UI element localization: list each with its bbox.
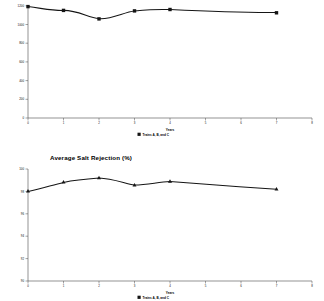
x-tick-label: 0 xyxy=(27,121,29,125)
x-tick-label: 4 xyxy=(169,121,171,125)
series-line-trains xyxy=(28,178,277,191)
figure-canvas: 0 200 400 600 800 1000 1200 xyxy=(0,0,324,301)
y-axis-tick-labels: 0 200 400 600 800 1000 1200 xyxy=(18,4,25,120)
x-tick-label: 2 xyxy=(98,284,100,288)
y-tick-label: 94 xyxy=(21,234,25,238)
chart-legend: Trains A, B, and C xyxy=(138,133,170,137)
x-tick-label: 0 xyxy=(27,284,29,288)
production-chart-plot: 0 200 400 600 800 1000 1200 xyxy=(0,0,324,145)
y-tick-label: 400 xyxy=(19,79,24,83)
x-tick-label: 3 xyxy=(134,121,136,125)
y-axis-tick-labels: 90 92 94 96 98 100 xyxy=(19,167,24,283)
data-point-marker xyxy=(26,5,29,8)
x-tick-label: 1 xyxy=(63,284,65,288)
salt-rejection-chart-plot: 90 92 94 96 98 100 0 1 xyxy=(0,147,324,301)
legend-square-icon xyxy=(138,296,141,299)
series-line-trains xyxy=(28,7,277,19)
production-chart: 0 200 400 600 800 1000 1200 xyxy=(0,0,324,145)
data-point-marker xyxy=(168,8,171,11)
y-tick-label: 96 xyxy=(21,212,25,216)
x-axis-title: Years xyxy=(166,128,175,132)
x-tick-label: 2 xyxy=(98,121,100,125)
data-point-marker xyxy=(97,17,100,20)
x-tick-label: 8 xyxy=(311,284,313,288)
chart-legend: Trains A, B, and C xyxy=(138,296,170,300)
data-point-marker xyxy=(62,9,65,12)
x-tick-label: 4 xyxy=(169,284,171,288)
x-axis-title: Years xyxy=(166,291,175,295)
x-tick-label: 5 xyxy=(205,284,207,288)
y-tick-label: 92 xyxy=(21,257,25,261)
y-tick-label: 100 xyxy=(19,167,24,171)
y-tick-label: 600 xyxy=(19,60,24,64)
y-tick-label: 800 xyxy=(19,41,24,45)
x-tick-label: 1 xyxy=(63,121,65,125)
x-tick-label: 3 xyxy=(134,284,136,288)
x-tick-label: 7 xyxy=(276,284,278,288)
y-axis-ticks xyxy=(26,169,29,281)
legend-label: Trains A, B, and C xyxy=(143,296,170,300)
data-point-marker xyxy=(168,179,172,183)
x-tick-label: 6 xyxy=(240,284,242,288)
x-tick-label: 6 xyxy=(240,121,242,125)
x-tick-label: 8 xyxy=(311,121,313,125)
x-axis-tick-labels: 0 1 2 3 4 5 6 7 8 xyxy=(27,121,313,125)
y-tick-label: 98 xyxy=(21,190,25,194)
y-axis-ticks xyxy=(26,6,29,118)
y-tick-label: 0 xyxy=(22,116,24,120)
x-axis-tick-labels: 0 1 2 3 4 5 6 7 8 xyxy=(27,284,313,288)
series-markers-trains xyxy=(26,5,278,21)
y-tick-label: 1200 xyxy=(18,4,25,8)
x-tick-label: 7 xyxy=(276,121,278,125)
y-tick-label: 200 xyxy=(19,97,24,101)
y-tick-label: 1000 xyxy=(18,23,25,27)
legend-label: Trains A, B, and C xyxy=(143,133,170,137)
x-axis-ticks xyxy=(28,281,312,284)
x-tick-label: 5 xyxy=(205,121,207,125)
x-axis-ticks xyxy=(28,118,312,121)
salt-rejection-chart: Average Salt Rejection (%) 90 92 94 96 9… xyxy=(0,147,324,301)
data-point-marker xyxy=(275,11,278,14)
y-tick-label: 90 xyxy=(21,279,25,283)
series-markers-trains xyxy=(26,176,279,193)
data-point-marker xyxy=(133,9,136,12)
data-point-marker xyxy=(97,176,101,180)
legend-square-icon xyxy=(138,133,141,136)
